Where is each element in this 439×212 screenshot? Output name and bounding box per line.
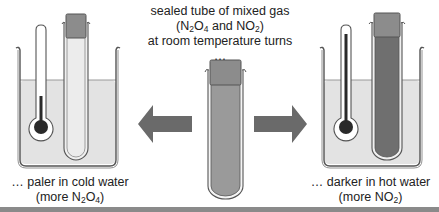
stopper (374, 13, 400, 37)
top-caption: sealed tube of mixed gas (N2O4 and NO2) … (140, 4, 300, 64)
right-caption: … darker in hot water (more NO2) (302, 175, 439, 205)
center-tube (205, 60, 246, 199)
right-caption-line1: … darker in hot water (302, 175, 439, 190)
pale-gas-tube (62, 14, 90, 160)
top-caption-line2: (N2O4 and NO2) (140, 19, 300, 34)
dark-gas-tube (369, 13, 405, 160)
diagram: sealed tube of mixed gas (N2O4 and NO2) … (0, 0, 439, 212)
left-arrow-icon (138, 105, 192, 143)
right-beaker (320, 13, 424, 168)
right-caption-line2: (more NO2) (302, 190, 439, 205)
left-caption-line2: (more N2O4) (0, 190, 140, 205)
top-caption-line3: at room temperature turns … (140, 34, 300, 64)
top-caption-line1: sealed tube of mixed gas (140, 4, 300, 19)
left-caption-line1: … paler in cold water (0, 175, 140, 190)
stopper (66, 14, 86, 38)
left-caption: … paler in cold water (more N2O4) (0, 175, 140, 205)
bottom-divider (0, 207, 439, 212)
right-arrow-icon (254, 105, 307, 143)
left-beaker (16, 14, 120, 168)
